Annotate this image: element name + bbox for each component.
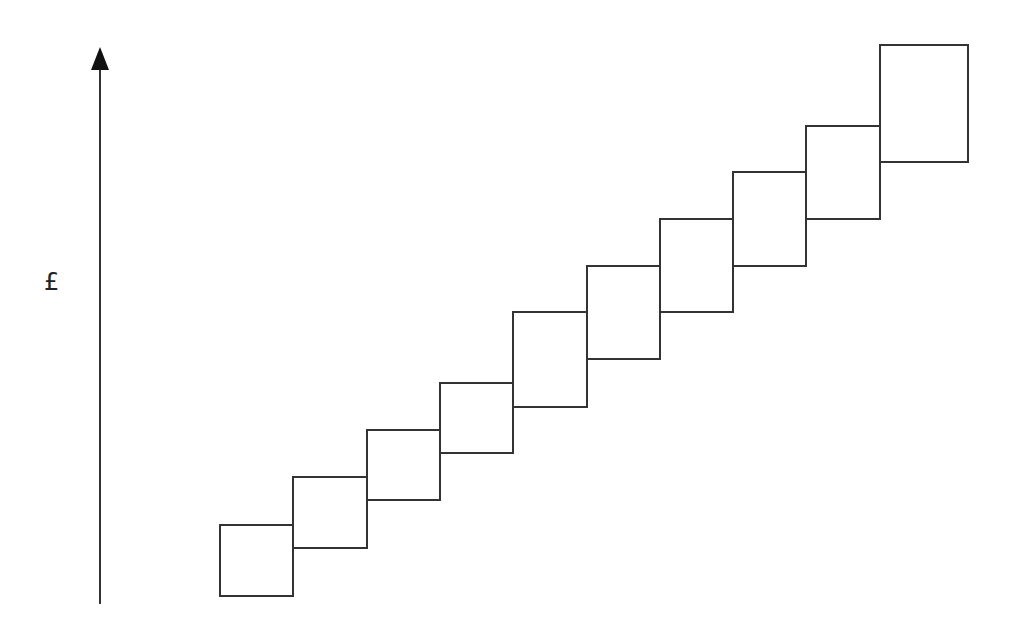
step-box-2 <box>293 477 367 548</box>
y-axis-label: £ <box>44 268 59 296</box>
step-box-10 <box>880 45 968 162</box>
arrow-up-icon <box>91 47 109 70</box>
step-box-6 <box>587 266 660 359</box>
step-boxes <box>220 45 968 596</box>
step-box-4 <box>440 383 513 453</box>
step-box-3 <box>367 430 440 500</box>
step-box-1 <box>220 525 293 596</box>
step-box-9 <box>806 126 880 219</box>
step-box-7 <box>660 219 733 312</box>
step-box-8 <box>733 172 806 266</box>
step-box-5 <box>513 312 587 407</box>
y-axis <box>91 47 109 604</box>
stepped-diagram <box>0 0 1021 627</box>
